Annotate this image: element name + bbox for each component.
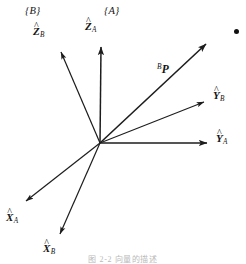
- position-vector-p-line: [100, 44, 206, 143]
- x-axis-frame-a-label: ^XA: [6, 212, 18, 225]
- y-axis-frame-b-line: [100, 102, 204, 143]
- hat-accent-icon: ^: [214, 85, 219, 95]
- z-axis-frame-b-label: ^ZB: [33, 26, 44, 39]
- hat-accent-icon: ^: [44, 238, 49, 248]
- hat-accent-icon: ^: [34, 21, 39, 31]
- x-axis-frame-b-line: [60, 143, 100, 234]
- z-axis-frame-a-line: [100, 47, 101, 143]
- position-vector-p-base: P: [162, 63, 169, 75]
- figure-caption: 图 2-2 向量的描述: [0, 253, 246, 264]
- hat-accent-icon: ^: [7, 207, 12, 217]
- x-axis-frame-a-symbol: ^X: [6, 212, 13, 223]
- hat-accent-icon: ^: [217, 128, 222, 138]
- z-axis-frame-a-label: ^ZA: [85, 21, 96, 34]
- hat-accent-icon: ^: [86, 16, 91, 26]
- frame-label-a: {A}: [104, 6, 119, 17]
- axis-line-group: [26, 47, 207, 234]
- z-axis-frame-b-line: [61, 52, 100, 143]
- frame-label-b: {B}: [25, 6, 40, 17]
- y-axis-frame-b-symbol: ^Y: [213, 90, 220, 101]
- vector-endpoint-dot: [234, 29, 239, 34]
- position-vector-group: [100, 44, 206, 143]
- y-axis-frame-a-subscript: A: [223, 138, 227, 146]
- z-axis-frame-a-subscript: A: [92, 26, 96, 34]
- x-axis-frame-a-line: [26, 143, 100, 201]
- position-vector-p-label: BP: [157, 63, 169, 76]
- y-axis-frame-a-label: ^YA: [216, 133, 227, 146]
- x-axis-frame-a-subscript: A: [14, 217, 18, 225]
- z-axis-frame-a-symbol: ^Z: [85, 21, 92, 32]
- y-axis-frame-b-subscript: B: [220, 95, 224, 103]
- y-axis-frame-a-symbol: ^Y: [216, 133, 223, 144]
- z-axis-frame-b-subscript: B: [40, 31, 44, 39]
- z-axis-frame-b-symbol: ^Z: [33, 26, 40, 37]
- y-axis-frame-b-label: ^YB: [213, 90, 224, 103]
